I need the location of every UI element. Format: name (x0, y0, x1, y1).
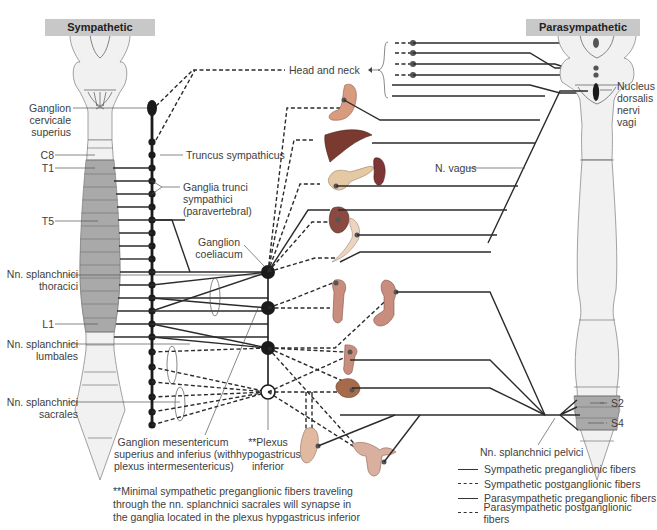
parasympathetic-spinal-cord (318, 35, 636, 480)
label-c8: C8 (30, 149, 54, 161)
label-splanchnici-sacrales: Nn. splanchnici sacrales (0, 396, 78, 420)
label-splanchnici-pelvici: Nn. splanchnici pelvici (480, 446, 583, 458)
legend-item: Sympathetic postganglionic fibers (458, 477, 657, 492)
label-ganglion-mesentericum: Ganglion mesentericum superius and infer… (114, 436, 232, 472)
label-ganglion-cervicale: Ganglion cervicale superius (0, 102, 71, 138)
parasympathetic-header: Parasympathetic (526, 19, 640, 36)
legend-item: Parasympathetic postganglionic fibers (458, 506, 657, 521)
dashed-line-icon (458, 512, 478, 513)
dashed-line-icon (458, 483, 478, 484)
solid-line-icon (458, 469, 478, 470)
label-s2: S2 (611, 397, 624, 409)
label-l1: L1 (30, 318, 54, 330)
label-ganglia-trunci: Ganglia trunci sympathici (paravertebral… (183, 181, 252, 217)
legend: Sympathetic preganglionic fibers Sympath… (458, 462, 657, 520)
label-splanchnici-thoracici: Nn. splanchnici thoracici (0, 268, 78, 292)
label-head-and-neck: Head and neck (289, 64, 360, 76)
label-ganglion-coeliacum: Ganglion coeliacum (189, 236, 249, 260)
head-neck-bracket (368, 40, 585, 98)
legend-item: Sympathetic preganglionic fibers (458, 462, 657, 477)
label-t1: T1 (30, 162, 54, 174)
sympathetic-header: Sympathetic (45, 19, 155, 36)
label-plexus-hypogastricus: **Plexus hypogastricus inferior (236, 436, 300, 472)
label-t5: T5 (30, 215, 54, 227)
label-splanchnici-lumbales: Nn. splanchnici lumbales (0, 338, 78, 362)
label-truncus-sympathicus: Truncus sympathicus (186, 149, 285, 161)
label-s4: S4 (611, 417, 624, 429)
solid-line-icon (458, 498, 478, 499)
footnote: **Minimal sympathetic preganglionic fibe… (113, 485, 360, 524)
label-n-vagus: N. vagus (435, 162, 487, 174)
label-nucleus-dorsalis: Nucleus dorsalis nervi vagi (617, 80, 655, 128)
